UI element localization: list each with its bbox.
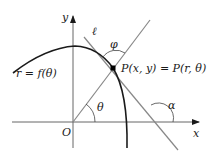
point-label: P(x, y) = P(r, θ) xyxy=(120,62,206,75)
phi-arc xyxy=(103,50,125,57)
theta-label: θ xyxy=(97,101,104,114)
point-p xyxy=(111,66,116,71)
tangent-label: ℓ xyxy=(92,25,97,38)
origin-label: O xyxy=(62,126,71,139)
curve-label: r = f(θ) xyxy=(16,67,57,80)
theta-arc xyxy=(86,104,95,122)
y-axis-label: y xyxy=(61,11,69,24)
alpha-label: α xyxy=(168,99,176,112)
x-axis-label: x xyxy=(193,127,200,140)
phi-label: φ xyxy=(110,38,118,51)
polar-tangent-diagram: y x O r = f(θ) ℓ P(x, y) = P(r, θ) θ φ α xyxy=(0,0,210,155)
